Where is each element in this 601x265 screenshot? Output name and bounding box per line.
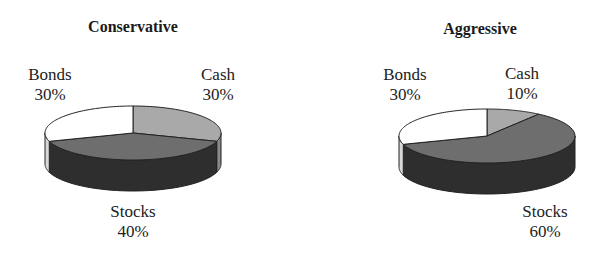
- label-cash-name: Cash: [496, 64, 548, 84]
- label-stocks-name: Stocks: [100, 202, 166, 222]
- label-cash-conservative: Cash 30%: [192, 65, 244, 105]
- label-stocks-conservative: Stocks 40%: [100, 202, 166, 242]
- label-cash-pct: 10%: [496, 84, 548, 104]
- label-bonds-name: Bonds: [375, 65, 435, 85]
- label-bonds-pct: 30%: [20, 85, 80, 105]
- label-bonds-name: Bonds: [20, 65, 80, 85]
- label-cash-aggressive: Cash 10%: [496, 64, 548, 104]
- label-bonds-pct: 30%: [375, 85, 435, 105]
- chart-title-conservative: Conservative: [58, 18, 208, 36]
- pie-conservative: [45, 106, 221, 191]
- label-stocks-pct: 40%: [100, 222, 166, 242]
- label-cash-name: Cash: [192, 65, 244, 85]
- chart-title-aggressive: Aggressive: [415, 20, 545, 38]
- label-bonds-conservative: Bonds 30%: [20, 65, 80, 105]
- label-bonds-aggressive: Bonds 30%: [375, 65, 435, 105]
- label-stocks-name: Stocks: [512, 202, 578, 222]
- pie-charts-canvas: [0, 0, 601, 265]
- label-stocks-pct: 60%: [512, 222, 578, 242]
- label-cash-pct: 30%: [192, 85, 244, 105]
- label-stocks-aggressive: Stocks 60%: [512, 202, 578, 242]
- pie-aggressive: [399, 109, 575, 194]
